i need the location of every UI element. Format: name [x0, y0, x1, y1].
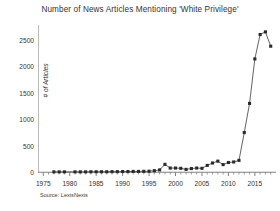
data-point — [259, 33, 262, 36]
data-point — [206, 164, 209, 167]
x-tick-label: 1975 — [36, 180, 51, 187]
data-point — [248, 102, 251, 105]
data-point — [195, 167, 198, 170]
data-point — [222, 163, 225, 166]
x-tick-label: 2000 — [168, 180, 183, 187]
data-point — [100, 170, 103, 173]
data-point — [216, 160, 219, 163]
data-point — [142, 170, 145, 173]
data-point — [58, 170, 61, 173]
x-tick-label: 1985 — [89, 180, 104, 187]
data-point — [63, 170, 66, 173]
data-point — [105, 170, 108, 173]
data-point — [179, 167, 182, 170]
data-point — [84, 170, 87, 173]
chart-figure: Number of News Articles Mentioning 'Whit… — [0, 0, 280, 211]
chart-title: Number of News Articles Mentioning 'Whit… — [0, 5, 280, 14]
data-point — [158, 168, 161, 171]
data-point — [200, 167, 203, 170]
plot-area: # of Articles 05001000150020002500197519… — [38, 25, 276, 176]
y-tick-label: 1500 — [19, 89, 34, 96]
x-tick-label: 1990 — [115, 180, 130, 187]
y-tick-label: 2500 — [19, 36, 34, 43]
data-point — [153, 169, 156, 172]
y-tick-label: 0 — [30, 169, 34, 176]
data-point — [237, 159, 240, 162]
data-point — [185, 168, 188, 171]
data-point — [137, 170, 140, 173]
data-point — [253, 57, 256, 60]
data-point — [227, 161, 230, 164]
data-point — [190, 167, 193, 170]
y-tick-label: 2000 — [19, 63, 34, 70]
data-point — [121, 170, 124, 173]
data-point — [174, 167, 177, 170]
data-point — [126, 170, 129, 173]
data-point — [243, 131, 246, 134]
x-tick-label: 2010 — [221, 180, 236, 187]
data-point — [79, 170, 82, 173]
data-point — [163, 163, 166, 166]
source-note: Source: LexisNexis — [40, 192, 88, 198]
data-point — [95, 170, 98, 173]
x-tick-label: 1995 — [142, 180, 157, 187]
data-point — [211, 161, 214, 164]
data-point — [148, 170, 151, 173]
x-tick-label: 2015 — [248, 180, 263, 187]
data-point — [116, 170, 119, 173]
data-point — [169, 167, 172, 170]
data-point — [89, 170, 92, 173]
line-chart-svg — [38, 25, 276, 176]
x-tick-label: 2005 — [195, 180, 210, 187]
data-point — [110, 170, 113, 173]
y-tick-label: 1000 — [19, 116, 34, 123]
data-point — [52, 170, 55, 173]
data-point — [232, 160, 235, 163]
data-point — [73, 170, 76, 173]
y-tick-label: 500 — [23, 142, 34, 149]
data-point — [264, 30, 267, 33]
x-tick-label: 1980 — [62, 180, 77, 187]
data-point — [132, 170, 135, 173]
data-point — [269, 45, 272, 48]
